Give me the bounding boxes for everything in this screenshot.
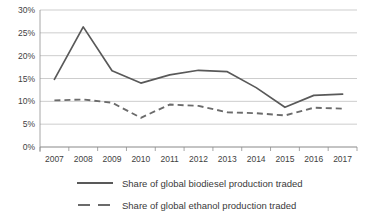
x-axis-tick-label: 2015 — [275, 154, 294, 164]
x-axis-tick-label: 2008 — [74, 154, 93, 164]
x-axis-tick-label: 2010 — [131, 154, 150, 164]
x-axis-tick-labels: 2007200820092010201120122013201420152016… — [45, 154, 352, 164]
gridlines-group — [40, 10, 357, 147]
x-axis-tick-label: 2011 — [161, 154, 180, 164]
legend-label-ethanol: Share of global ethanol production trade… — [122, 200, 296, 211]
legend-item-biodiesel: Share of global biodiesel production tra… — [0, 172, 365, 194]
y-axis-tick-label: 0% — [23, 142, 36, 152]
legend-swatch-solid-icon — [77, 178, 113, 188]
plot-area: 0%5%10%15%20%25%30% 20072008200920102011… — [0, 0, 365, 170]
x-axis-tick-label: 2007 — [45, 154, 64, 164]
line-chart-svg: 0%5%10%15%20%25%30% 20072008200920102011… — [0, 0, 365, 170]
y-axis-tick-labels: 0%5%10%15%20%25%30% — [18, 5, 35, 152]
x-axis-tick-label: 2013 — [218, 154, 237, 164]
x-axis-tick-label: 2017 — [333, 154, 352, 164]
x-axis-tick-label: 2014 — [247, 154, 266, 164]
y-axis-tick-label: 10% — [18, 96, 35, 106]
y-axis-tick-label: 5% — [23, 119, 36, 129]
chart-legend: Share of global biodiesel production tra… — [0, 172, 365, 216]
x-axis-tick-label: 2012 — [189, 154, 208, 164]
y-axis-tick-label: 15% — [18, 74, 35, 84]
legend-swatch-dashed-icon — [77, 200, 113, 210]
x-axis-tick-label: 2009 — [103, 154, 122, 164]
legend-label-biodiesel: Share of global biodiesel production tra… — [122, 178, 303, 189]
chart-container: 0%5%10%15%20%25%30% 20072008200920102011… — [0, 0, 365, 224]
y-axis-tick-label: 20% — [18, 51, 35, 61]
y-axis-tick-label: 30% — [18, 5, 35, 15]
series-line-biodiesel — [54, 27, 342, 107]
legend-item-ethanol: Share of global ethanol production trade… — [0, 194, 365, 216]
x-axis-tick-label: 2016 — [304, 154, 323, 164]
x-axis-tick-marks — [40, 147, 357, 151]
y-axis-tick-label: 25% — [18, 28, 35, 38]
